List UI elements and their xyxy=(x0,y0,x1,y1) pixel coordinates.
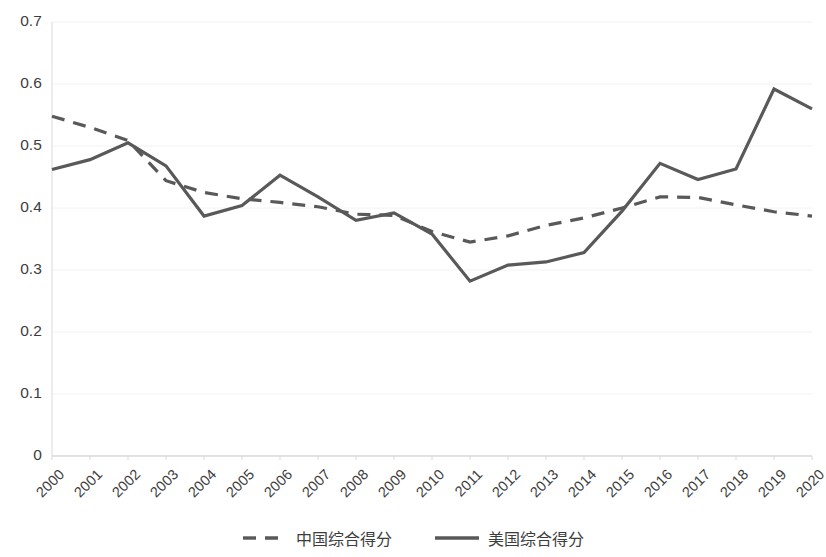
y-axis-tick-label: 0.5 xyxy=(0,136,42,154)
chart-legend: 中国综合得分美国综合得分 xyxy=(0,521,826,555)
gridlines xyxy=(52,22,812,456)
series-line-2 xyxy=(52,89,812,281)
y-axis-tick-label: 0.3 xyxy=(0,260,42,278)
y-axis-tick-label: 0.4 xyxy=(0,198,42,216)
y-axis-tick-label: 0.1 xyxy=(0,384,42,402)
legend-item-1[interactable]: 中国综合得分 xyxy=(242,526,392,550)
line-chart: 00.10.20.30.40.50.60.7 20002001200220032… xyxy=(0,0,826,557)
y-axis-tick-label: 0.2 xyxy=(0,322,42,340)
legend-label: 中国综合得分 xyxy=(296,526,392,550)
x-axis-tick-marks xyxy=(52,456,812,460)
dashed-line-icon xyxy=(242,531,288,545)
data-series-lines xyxy=(52,89,812,281)
y-axis-tick-label: 0.7 xyxy=(0,12,42,30)
y-axis-tick-label: 0 xyxy=(0,446,42,464)
axis-lines xyxy=(52,22,812,456)
y-axis-tick-label: 0.6 xyxy=(0,74,42,92)
legend-item-2[interactable]: 美国综合得分 xyxy=(434,526,584,550)
legend-label: 美国综合得分 xyxy=(488,526,584,550)
solid-line-icon xyxy=(434,531,480,545)
